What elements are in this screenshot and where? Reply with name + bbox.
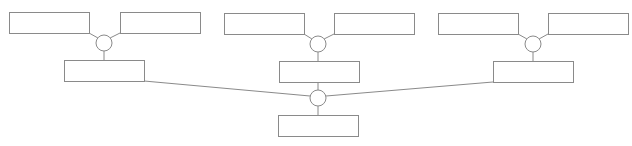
edge-right-top-b-to-junction [539,34,548,39]
box-center-mid [280,62,360,83]
box-right-top-b [549,14,629,35]
edge-left-top-a-to-junction [89,33,98,38]
box-center-top-b [335,14,415,35]
box-left-mid [65,61,145,82]
edge-right-mid-to-bottom-junction [326,82,493,96]
box-left-top-a [10,13,90,34]
box-right-top-a [439,14,519,35]
box-bottom-root [279,116,359,137]
junction-left-circle [96,35,112,51]
box-center-top-a [225,14,305,35]
box-left-top-b [121,13,201,34]
junction-center-circle [310,36,326,52]
merge-tree-diagram [0,0,632,146]
edge-center-top-a-to-junction [304,34,312,39]
junction-right-circle [525,36,541,52]
edge-left-mid-to-bottom-junction [144,81,310,96]
junction-bottom-circle [310,90,326,106]
boxes [10,13,629,137]
edge-right-top-a-to-junction [518,34,527,39]
box-right-mid [494,62,574,83]
edge-left-top-b-to-junction [110,33,120,38]
edge-center-top-b-to-junction [324,34,334,39]
